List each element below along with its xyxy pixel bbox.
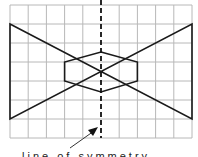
arrow-shaft: [70, 131, 94, 148]
symmetry-label: line of symmetry: [22, 150, 150, 157]
symmetry-diagram: [0, 0, 198, 157]
